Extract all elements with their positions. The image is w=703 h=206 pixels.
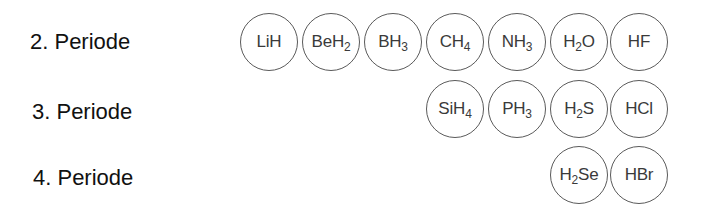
molecule-formula: HCl — [625, 99, 653, 119]
molecule-circle: BH3 — [364, 13, 422, 71]
molecule-formula: PH3 — [502, 99, 532, 119]
molecule-formula: BH3 — [378, 32, 408, 52]
formula-subscript: 3 — [525, 107, 531, 121]
molecule-circle: CH4 — [426, 13, 484, 71]
molecule-formula: HBr — [625, 165, 654, 185]
formula-element: BeH — [312, 32, 344, 51]
molecule-circle: H2S — [550, 80, 608, 138]
molecule-circle: H2O — [550, 13, 608, 71]
molecule-formula: SiH4 — [438, 99, 471, 119]
formula-element: HF — [628, 32, 650, 51]
molecule-formula: CH4 — [440, 32, 471, 52]
formula-subscript: 4 — [465, 107, 471, 121]
molecule-circle: BeH2 — [302, 13, 360, 71]
formula-element: H — [564, 99, 576, 118]
formula-element: SiH — [438, 99, 465, 118]
molecule-formula: H2S — [564, 99, 594, 119]
formula-element: HBr — [625, 165, 654, 184]
molecule-circle: HF — [610, 13, 668, 71]
molecule-circle: HCl — [610, 80, 668, 138]
molecule-circle: SiH4 — [426, 80, 484, 138]
row-label-period-2: 2. Periode — [30, 29, 130, 55]
molecule-circle: H2Se — [550, 146, 608, 204]
molecule-formula: H2O — [563, 32, 595, 52]
row-label-period-4: 4. Periode — [33, 165, 133, 191]
formula-element: BH — [378, 32, 401, 51]
formula-element: H — [560, 165, 572, 184]
formula-subscript: 3 — [401, 40, 407, 54]
molecule-formula: BeH2 — [312, 32, 351, 52]
formula-element: O — [582, 32, 595, 51]
formula-element: H — [563, 32, 575, 51]
formula-element: NH — [502, 32, 526, 51]
formula-subscript: 4 — [464, 40, 470, 54]
molecule-formula: LiH — [257, 32, 282, 52]
molecule-circle: NH3 — [488, 13, 546, 71]
row-label-period-3: 3. Periode — [32, 99, 132, 125]
molecule-formula: HF — [628, 32, 650, 52]
molecule-formula: NH3 — [502, 32, 533, 52]
formula-subscript: 2 — [344, 40, 350, 54]
formula-element: Se — [578, 165, 598, 184]
molecule-circle: LiH — [240, 13, 298, 71]
molecule-circle: PH3 — [488, 80, 546, 138]
formula-element: LiH — [257, 32, 282, 51]
formula-element: PH — [502, 99, 525, 118]
formula-element: CH — [440, 32, 464, 51]
formula-element: HCl — [625, 99, 653, 118]
formula-subscript: 3 — [526, 40, 532, 54]
molecule-circle: HBr — [610, 146, 668, 204]
formula-element: S — [583, 99, 594, 118]
molecule-formula: H2Se — [560, 165, 599, 185]
